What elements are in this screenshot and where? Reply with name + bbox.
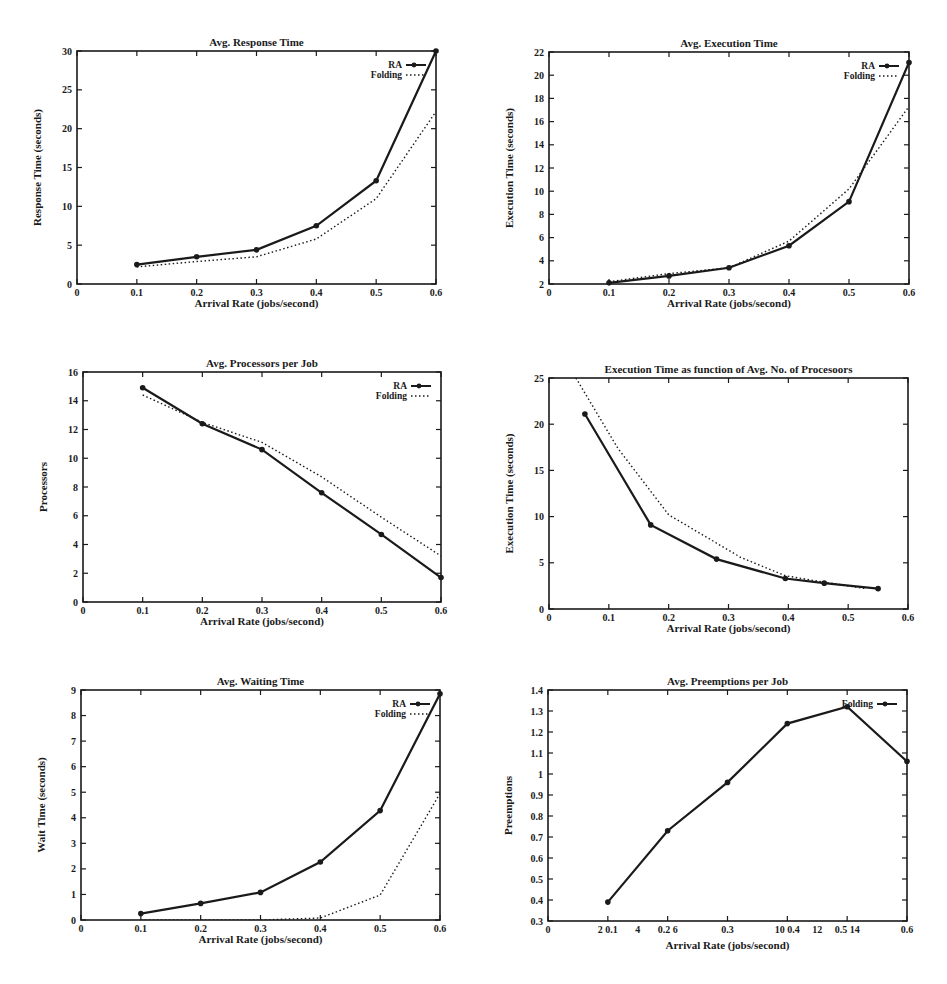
x-tick-label: 0 xyxy=(79,923,84,934)
y-tick-label: 5 xyxy=(67,240,72,251)
data-point-marker xyxy=(438,575,444,581)
y-axis-label: Response Time (seconds) xyxy=(31,109,44,226)
data-point-marker xyxy=(582,411,588,417)
y-tick-label: 8 xyxy=(71,710,76,721)
x-tick-label: 0.6 xyxy=(902,612,915,623)
x-tick-label: 0 xyxy=(547,287,552,298)
y-axis-label: Execution Time (seconds) xyxy=(503,433,516,553)
y-tick-label: 18 xyxy=(534,93,544,104)
y-tick-label: 0.3 xyxy=(531,916,544,927)
series-line-ra xyxy=(585,414,878,589)
y-tick-label: 4 xyxy=(539,255,544,266)
x-axis-label: Arrival Rate (jobs/second) xyxy=(198,933,322,946)
y-tick-label: 20 xyxy=(534,419,544,430)
data-point-marker xyxy=(198,901,204,907)
x-tick-label: 0.2 6 xyxy=(658,924,678,935)
series-line-ra xyxy=(143,388,441,578)
chart-execution-time-vs-processors: Execution Time as function of Avg. No. o… xyxy=(489,354,918,645)
data-point-marker xyxy=(665,828,671,834)
legend-label: Folding xyxy=(842,699,873,709)
chart-title: Execution Time as function of Avg. No. o… xyxy=(605,363,854,375)
data-point-marker xyxy=(318,859,324,865)
data-point-marker xyxy=(200,421,206,427)
data-point-marker xyxy=(379,532,385,538)
x-tick-label: 0.1 xyxy=(136,605,149,616)
legend-label: Folding xyxy=(375,709,406,719)
x-tick-label: 0.5 14 xyxy=(835,924,860,935)
series-line-folding xyxy=(143,395,441,556)
data-point-marker xyxy=(605,899,611,905)
x-tick-label: 0.5 xyxy=(375,605,388,616)
legend-label: RA xyxy=(393,381,407,391)
data-point-marker xyxy=(319,490,325,496)
legend: RAFolding xyxy=(371,60,426,80)
y-tick-label: 1.1 xyxy=(531,748,544,759)
y-tick-label: 6 xyxy=(73,510,78,521)
x-tick-label: 0 xyxy=(75,287,80,298)
legend: RAFolding xyxy=(376,381,431,401)
plot-frame xyxy=(549,378,908,609)
data-point-marker xyxy=(821,580,827,586)
x-tick-label: 0.6 xyxy=(430,287,443,298)
data-point-marker xyxy=(314,223,320,229)
data-point-marker xyxy=(140,385,146,391)
x-tick-label: 2 0.1 xyxy=(598,924,618,935)
data-point-marker xyxy=(259,447,265,453)
y-tick-label: 5 xyxy=(539,557,544,568)
y-axis-label: Preemptions xyxy=(502,775,514,835)
series-line-folding xyxy=(609,107,909,282)
y-tick-label: 30 xyxy=(62,46,72,57)
x-tick-label: 0.5 xyxy=(843,287,856,298)
data-point-marker xyxy=(785,721,791,727)
x-tick-label: 0.5 xyxy=(374,923,387,934)
y-tick-label: 25 xyxy=(534,373,544,384)
chart-title: Avg. Waiting Time xyxy=(217,675,305,687)
y-tick-label: 6 xyxy=(539,232,544,243)
legend-label: RA xyxy=(861,61,875,71)
legend-label: RA xyxy=(392,699,406,709)
y-tick-label: 16 xyxy=(68,367,78,378)
y-axis-label: Processors xyxy=(37,461,49,512)
x-tick-label: 0.5 xyxy=(842,612,855,623)
legend: Folding xyxy=(842,699,897,709)
legend-label: Folding xyxy=(371,70,402,80)
data-point-marker xyxy=(714,556,720,562)
data-point-marker xyxy=(606,280,612,286)
x-tick-label: 0.1 xyxy=(603,612,616,623)
y-tick-label: 20 xyxy=(534,70,544,81)
y-tick-label: 12 xyxy=(68,424,78,435)
series-line-folding xyxy=(576,378,866,589)
plot-frame xyxy=(549,52,909,284)
y-tick-label: 1.3 xyxy=(531,706,544,717)
data-point-marker xyxy=(725,780,731,786)
data-point-marker xyxy=(258,890,264,896)
chart-avg-response-time: Avg. Response Time05101520253000.10.20.3… xyxy=(17,27,446,320)
series-line-ra xyxy=(137,51,436,265)
y-tick-label: 1.2 xyxy=(531,727,544,738)
x-tick-label: 12 xyxy=(812,924,822,935)
data-point-marker xyxy=(846,199,852,205)
data-point-marker xyxy=(726,265,732,271)
x-tick-label: 0.6 xyxy=(901,924,914,935)
y-tick-label: 10 xyxy=(534,186,544,197)
y-tick-label: 0 xyxy=(73,597,78,608)
data-point-marker xyxy=(648,522,654,528)
y-tick-label: 0 xyxy=(71,915,76,926)
y-tick-label: 8 xyxy=(73,482,78,493)
y-tick-label: 12 xyxy=(534,163,544,174)
x-tick-label: 0.1 xyxy=(135,923,148,934)
chart-title: Avg. Preemptions per Job xyxy=(667,675,788,687)
x-tick-label: 10 0.4 xyxy=(775,924,800,935)
data-point-marker xyxy=(254,247,260,253)
data-point-marker xyxy=(377,808,383,814)
y-tick-label: 0.6 xyxy=(531,853,544,864)
x-tick-label: 0 xyxy=(547,612,552,623)
x-axis-label: Arrival Rate (jobs/second) xyxy=(667,297,791,310)
y-tick-label: 0 xyxy=(67,279,72,290)
chart-avg-execution-time: Avg. Execution Time24681012141618202200.… xyxy=(489,28,919,320)
y-tick-label: 2 xyxy=(71,863,76,874)
x-tick-label: 0 xyxy=(546,924,551,935)
y-tick-label: 14 xyxy=(534,139,544,150)
y-tick-label: 0.7 xyxy=(531,832,544,843)
x-axis-label: Arrival Rate (jobs/second) xyxy=(665,939,789,952)
